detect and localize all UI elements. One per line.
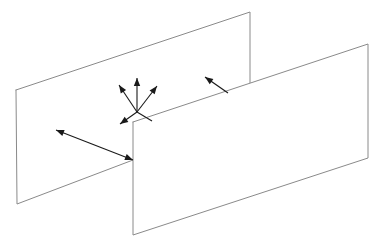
planes-diagram (0, 0, 380, 250)
diagram-canvas (0, 0, 380, 250)
